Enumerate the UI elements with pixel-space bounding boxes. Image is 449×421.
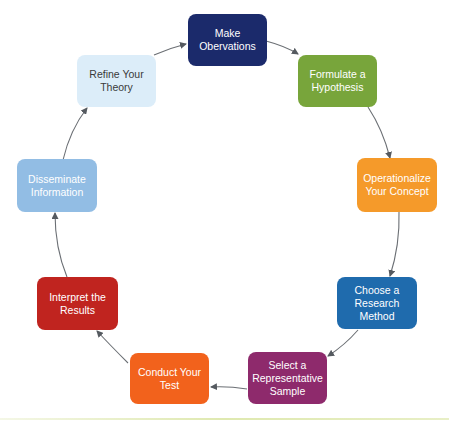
node-select-sample[interactable]: Select a Representative Sample [248,352,327,404]
arrow-disseminate-to-refine [63,108,87,160]
node-label-line: Conduct Your [138,366,201,379]
node-label-line: Make [199,27,256,40]
node-label-line: Test [138,379,201,392]
node-conduct-test[interactable]: Conduct Your Test [130,353,209,404]
node-label-line: Operationalize [363,172,431,185]
arrow-operationalize-to-method [390,212,399,276]
node-label-line: Method [355,310,400,323]
arrow-method-to-sample [328,330,358,356]
node-formulate-hypothesis[interactable]: Formulate a Hypothesis [298,55,377,107]
arrow-test-to-interpret [97,331,128,363]
node-disseminate-information[interactable]: Disseminate Information [17,159,97,212]
node-refine-theory[interactable]: Refine Your Theory [77,55,156,107]
node-label-line: Choose a [355,284,400,297]
research-cycle-diagram: Make Obervations Formulate a Hypothesis … [0,0,449,421]
node-label-line: Representative [252,372,323,385]
node-label-line: Theory [89,81,143,94]
arrow-sample-to-test [211,387,247,389]
arrow-refine-to-observations [154,44,186,55]
node-label-line: Disseminate [28,173,86,186]
bottom-divider [0,418,449,420]
node-label-line: Obervations [199,40,256,53]
node-label-line: Your Concept [363,185,431,198]
node-choose-research-method[interactable]: Choose a Research Method [337,277,417,329]
node-label-line: Sample [252,385,323,398]
node-label-line: Hypothesis [309,81,365,94]
node-label-line: Interpret the [49,291,106,304]
node-label-line: Information [28,186,86,199]
node-label-line: Refine Your [89,68,143,81]
node-label-line: Formulate a [309,68,365,81]
node-make-observations[interactable]: Make Obervations [188,14,267,66]
node-interpret-results[interactable]: Interpret the Results [37,277,118,330]
arrow-interpret-to-disseminate [55,213,67,277]
arrow-hypothesis-to-operationalize [368,107,390,158]
node-label-line: Select a [252,359,323,372]
node-operationalize-concept[interactable]: Operationalize Your Concept [357,158,437,212]
node-label-line: Results [49,304,106,317]
arrow-observations-to-hypothesis [266,41,298,54]
node-label-line: Research [355,297,400,310]
